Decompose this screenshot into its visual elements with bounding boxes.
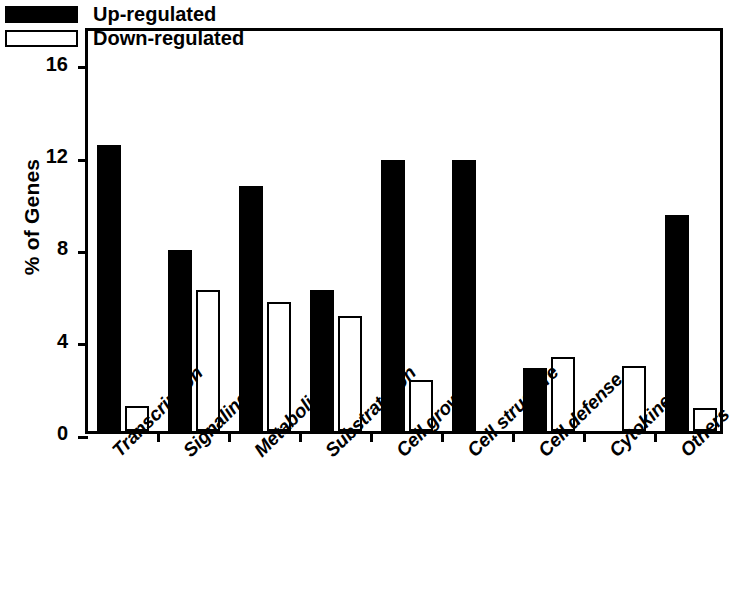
y-axis-tick: [78, 251, 88, 254]
bar-group: [301, 31, 372, 431]
y-axis-tick-label: 4: [34, 331, 68, 351]
bar-group: [442, 31, 513, 431]
legend-label: Up-regulated: [93, 4, 216, 25]
x-axis-category-labels: TranscriptionSignalingMetabolismSubstrat…: [85, 434, 723, 584]
legend-swatch-down: [5, 30, 78, 47]
y-axis-tick: [78, 343, 88, 346]
bar-chart-figure: % of Genes 0481216 Up-regulatedDown-regu…: [0, 0, 752, 600]
y-axis-tick-label: 0: [34, 423, 68, 443]
bar-group: [230, 31, 301, 431]
bar-group: [655, 31, 726, 431]
y-axis-tick-labels: 0481216: [28, 0, 68, 600]
bar-group: [88, 31, 159, 431]
legend-entry: Down-regulated: [5, 28, 305, 50]
legend-label: Down-regulated: [93, 28, 244, 49]
bar-group: [584, 31, 655, 431]
y-axis-tick-label: 16: [34, 54, 68, 74]
legend-entry: Up-regulated: [5, 4, 305, 26]
y-axis-tick: [78, 159, 88, 162]
y-axis-tick-label: 12: [34, 146, 68, 166]
chart-legend: Up-regulatedDown-regulated: [5, 4, 305, 52]
bar-up-regulated: [97, 145, 121, 431]
legend-swatch-up: [5, 6, 78, 23]
y-axis-tick-label: 8: [34, 238, 68, 258]
y-axis-tick: [78, 66, 88, 69]
